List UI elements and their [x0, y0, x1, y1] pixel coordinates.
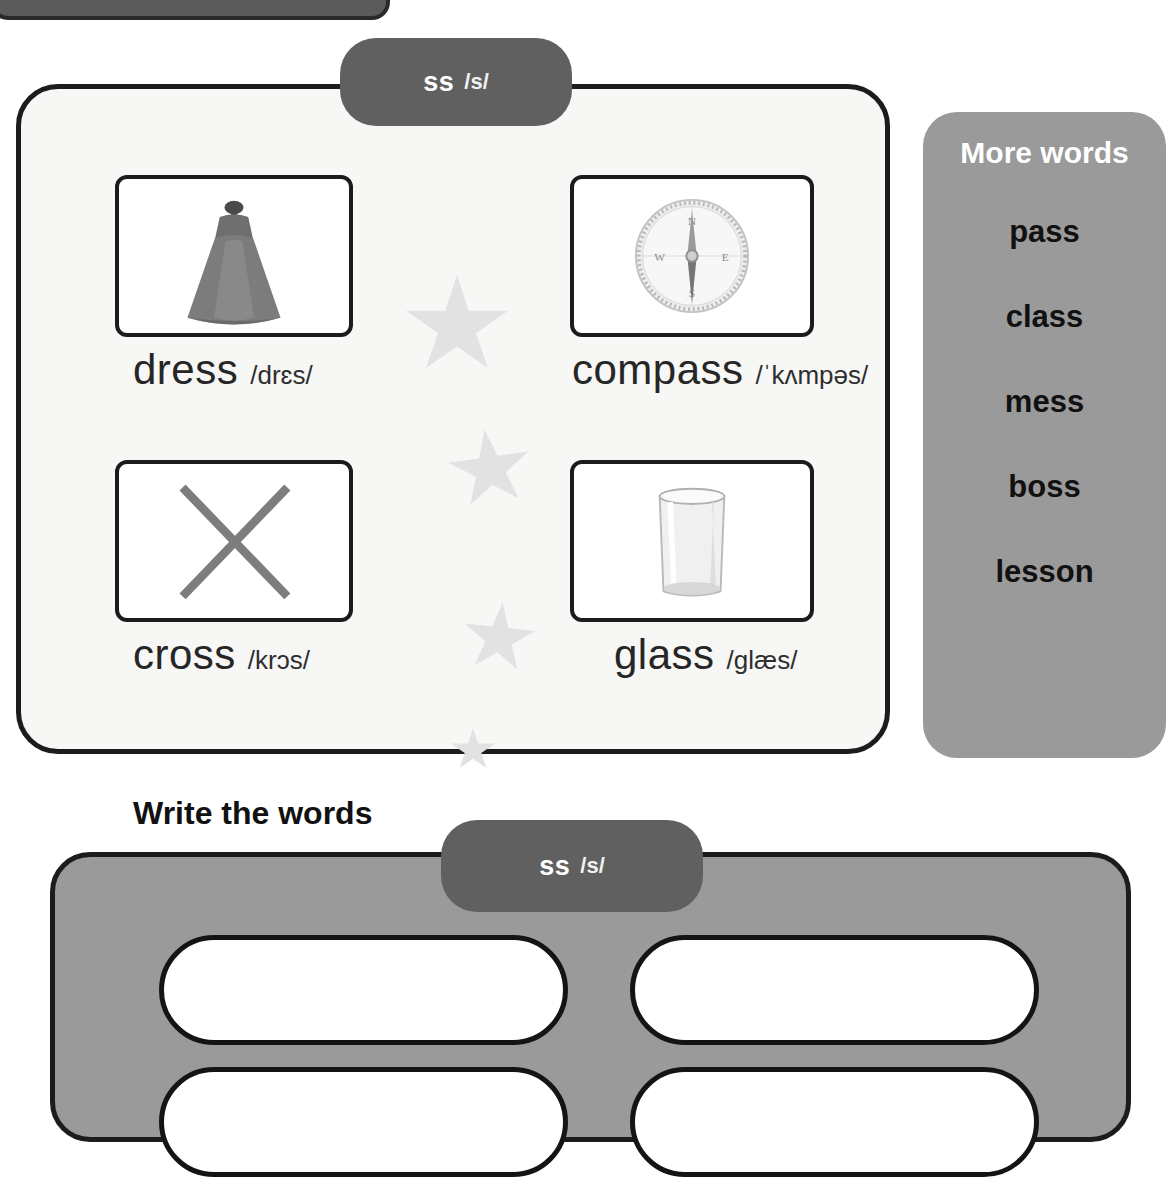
phoneme-text: /s/ — [464, 69, 488, 95]
word-cell-cross: cross /krɔs/ — [115, 460, 353, 679]
ipa-text: /ˈkʌmpəs/ — [756, 360, 869, 391]
word-label: cross /krɔs/ — [115, 631, 353, 679]
write-box[interactable] — [630, 935, 1039, 1045]
word-label: glass /glæs/ — [570, 631, 814, 679]
write-box[interactable] — [630, 1067, 1039, 1177]
word-text: dress — [133, 346, 238, 394]
phoneme-badge-top: ss /s/ — [340, 38, 572, 126]
write-boxes-grid — [159, 935, 1039, 1177]
picture-panel: dress /drɛs/ N E S W — [16, 84, 890, 754]
word-text: glass — [614, 631, 715, 679]
more-word-item: pass — [1009, 214, 1080, 250]
more-word-item: mess — [1005, 384, 1084, 420]
previous-section-crop — [0, 0, 390, 20]
word-cell-dress: dress /drɛs/ — [115, 175, 353, 394]
grapheme-text: ss — [423, 67, 454, 98]
image-card[interactable] — [570, 460, 814, 622]
svg-text:W: W — [654, 251, 665, 263]
write-box[interactable] — [159, 1067, 568, 1177]
compass-image: N E S W — [574, 179, 810, 333]
image-card[interactable] — [115, 175, 353, 337]
more-word-item: lesson — [995, 554, 1093, 590]
image-card[interactable]: N E S W — [570, 175, 814, 337]
ipa-text: /drɛs/ — [250, 360, 313, 391]
more-words-title: More words — [960, 136, 1128, 170]
word-label: compass /ˈkʌmpəs/ — [570, 346, 868, 394]
word-text: cross — [133, 631, 236, 679]
write-section-heading: Write the words — [133, 795, 372, 832]
more-words-panel: More words pass class mess boss lesson — [923, 112, 1166, 758]
more-word-item: boss — [1008, 469, 1080, 505]
ipa-text: /krɔs/ — [248, 645, 310, 676]
ipa-text: /glæs/ — [727, 645, 798, 676]
word-picture-grid: dress /drɛs/ N E S W — [21, 89, 885, 749]
glass-image — [574, 464, 810, 618]
image-card[interactable] — [115, 460, 353, 622]
dress-image — [119, 179, 349, 333]
svg-text:E: E — [722, 251, 729, 263]
word-cell-glass: glass /glæs/ — [570, 460, 814, 679]
phoneme-text: /s/ — [580, 853, 604, 879]
cross-image — [119, 464, 349, 618]
phoneme-badge-write: ss /s/ — [441, 820, 703, 912]
write-box[interactable] — [159, 935, 568, 1045]
word-cell-compass: N E S W compass /ˈkʌmpəs/ — [570, 175, 868, 394]
word-text: compass — [572, 346, 744, 394]
grapheme-text: ss — [539, 851, 570, 882]
more-word-item: class — [1006, 299, 1084, 335]
word-label: dress /drɛs/ — [115, 346, 353, 394]
